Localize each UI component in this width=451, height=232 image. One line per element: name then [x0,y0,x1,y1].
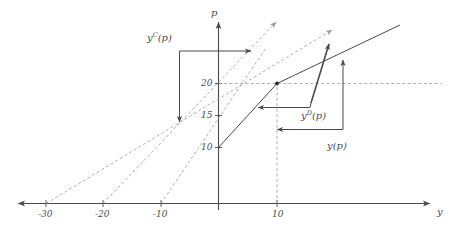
y-curve-label: y(p) [327,141,347,151]
yd-bracket-riser [310,103,311,108]
yd-curve-label: yD(p) [301,111,326,121]
yc-curve-label: yC(p) [147,33,172,43]
yd-label-tail: (p) [312,110,326,121]
yd-bracket-steep-arrow [311,44,329,103]
x-tick-label-minus20: -20 [95,210,110,219]
x-tick-label-minus30: -30 [38,210,53,219]
x-tick-label-minus10: -10 [153,210,168,219]
x-tick-label-10: 10 [272,210,283,219]
y-label-tail: (p) [333,140,347,151]
axes-group [18,22,430,210]
y-tick-label-15: 15 [201,111,212,120]
y-tick-label-10: 10 [201,143,212,152]
economics-diagram-figure: p y -30 -20 -10 10 20 15 10 yC(p) yD(p) … [0,0,451,232]
yc-label-tail: (p) [158,32,172,43]
x-axis-title: y [437,207,443,217]
y-axis-title: p [211,8,217,18]
y-tick-label-20: 20 [201,79,212,88]
plot-canvas [0,0,451,232]
dashed-ray-from-minus30 [46,30,332,204]
dashed-supply-rays [46,22,332,204]
dashed-ray-from-minus10 [161,48,266,204]
equilibrium-point-marker [275,82,279,86]
